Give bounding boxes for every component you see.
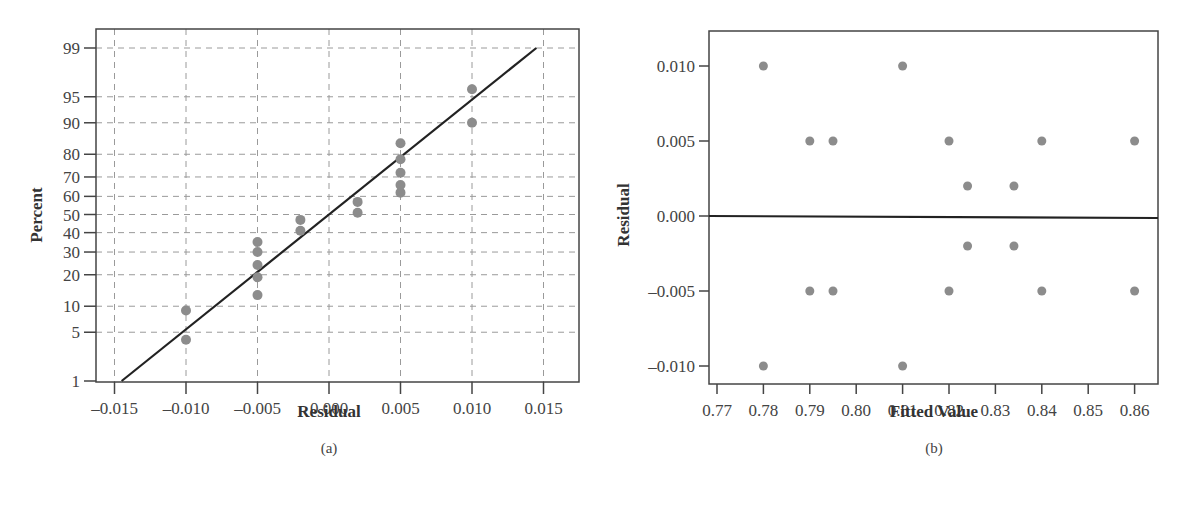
y-tick-label: 0.000 [657, 207, 695, 226]
data-point [759, 62, 768, 71]
y-tick-label: 0.005 [657, 132, 695, 151]
x-tick-label: –0.010 [162, 399, 210, 418]
y-tick-label: 99 [63, 39, 80, 58]
y-tick-label: 70 [63, 168, 80, 187]
y-tick-label: 5 [72, 323, 81, 342]
data-point [396, 138, 406, 148]
data-point [295, 215, 305, 225]
grid-lines [96, 29, 579, 382]
data-point [829, 137, 838, 146]
data-point [253, 290, 263, 300]
y-tick-label: –0.010 [647, 357, 695, 376]
data-point [353, 197, 363, 207]
data-point [396, 168, 406, 178]
data-point [253, 272, 263, 282]
data-point [1009, 242, 1018, 251]
y-tick-label: 80 [63, 145, 80, 164]
plot-frame [709, 31, 1158, 384]
data-point [253, 247, 263, 257]
data-point [467, 118, 477, 128]
data-point [945, 137, 954, 146]
data-point [1009, 182, 1018, 191]
plot-frame [96, 29, 579, 382]
data-point [295, 226, 305, 236]
y-tick-label: 30 [63, 243, 80, 262]
data-point [396, 154, 406, 164]
data-point [898, 362, 907, 371]
y-tick-label: 50 [63, 206, 80, 225]
data-point [253, 260, 263, 270]
x-tick-label: 0.005 [381, 399, 419, 418]
y-axis-title: Percent [27, 187, 46, 243]
x-tick-label: 0.80 [841, 401, 871, 420]
normal-probability-plot: 151020304050607080909599–0.015–0.010–0.0… [27, 29, 579, 457]
x-tick-label: 0.84 [1027, 401, 1057, 420]
data-point [805, 137, 814, 146]
x-tick-label: –0.015 [90, 399, 138, 418]
y-tick-label: 60 [63, 187, 80, 206]
x-tick-label: 0.86 [1120, 401, 1150, 420]
y-tick-label: 95 [63, 88, 80, 107]
x-tick-label: 0.015 [524, 399, 562, 418]
data-point [353, 208, 363, 218]
x-tick-label: 0.79 [795, 401, 825, 420]
figure-canvas: 151020304050607080909599–0.015–0.010–0.0… [0, 0, 1179, 515]
data-point [1130, 287, 1139, 296]
y-tick-label: 0.010 [657, 57, 695, 76]
x-tick-label: 0.78 [749, 401, 779, 420]
zero-reference-line [709, 216, 1158, 218]
data-point [181, 335, 191, 345]
y-tick-label: 20 [63, 266, 80, 285]
data-point [945, 287, 954, 296]
residuals-vs-fitted-plot: –0.010–0.0050.0000.0050.0100.770.780.790… [614, 31, 1158, 457]
panel-label-a: (a) [321, 440, 338, 457]
y-tick-label: 1 [72, 372, 81, 391]
panel-label-b: (b) [925, 440, 943, 457]
x-tick-label: 0.83 [981, 401, 1011, 420]
data-point [805, 287, 814, 296]
y-tick-label: –0.005 [647, 282, 695, 301]
y-axis-title: Residual [614, 183, 633, 247]
y-tick-label: 40 [63, 224, 80, 243]
x-tick-label: –0.005 [233, 399, 281, 418]
data-point [963, 242, 972, 251]
x-tick-label: 0.010 [453, 399, 491, 418]
x-tick-label: 0.77 [702, 401, 732, 420]
data-point [759, 362, 768, 371]
data-point [829, 287, 838, 296]
data-point [396, 180, 406, 190]
y-tick-label: 90 [63, 114, 80, 133]
x-axis-title: Residual [297, 402, 361, 421]
x-tick-label: 0.85 [1073, 401, 1103, 420]
zero-line [709, 216, 1158, 218]
data-point [1130, 137, 1139, 146]
data-point [181, 305, 191, 315]
data-point [963, 182, 972, 191]
data-point [1037, 287, 1046, 296]
y-tick-label: 10 [63, 297, 80, 316]
data-point [1037, 137, 1046, 146]
axes [699, 31, 1158, 394]
data-point [467, 84, 477, 94]
data-point [253, 237, 263, 247]
data-point [898, 62, 907, 71]
x-axis-title: Fitted Value [890, 402, 979, 421]
